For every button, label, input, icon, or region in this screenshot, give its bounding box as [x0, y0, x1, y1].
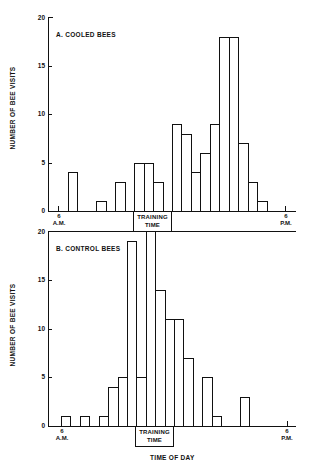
y-tick-label-a-20: 20 — [31, 14, 45, 21]
x-tick-a-6am — [58, 206, 59, 211]
x-tick-label-a-6am: 6 A.M. — [49, 213, 69, 227]
histogram-bar — [183, 358, 194, 426]
y-tick-a-5 — [48, 163, 52, 164]
histogram-bar — [153, 182, 164, 211]
training-time-box-b: TRAINING TIME — [135, 426, 174, 447]
y-axis-label-a: NUMBER OF BEE VISITS — [9, 70, 16, 150]
x-tick-label-b-6pm: 6 P.M. — [277, 428, 297, 442]
panel-title-a: A. COOLED BEES — [56, 31, 116, 38]
y-tick-label-b-15: 15 — [31, 276, 45, 283]
x-tick-a-6pm — [285, 206, 286, 211]
y-tick-label-b-5: 5 — [31, 373, 45, 380]
panel-b-top-border — [48, 231, 296, 232]
y-axis-label-b: NUMBER OF BEE VISITS — [9, 287, 16, 367]
y-tick-label-a-15: 15 — [31, 62, 45, 69]
y-tick-a-10 — [48, 114, 52, 115]
y-tick-label-a-10: 10 — [31, 110, 45, 117]
x-tick-label-b-6am: 6 A.M. — [52, 428, 72, 442]
y-tick-label-b-10: 10 — [31, 325, 45, 332]
y-tick-label-a-0: 0 — [31, 207, 45, 214]
histogram-bar — [96, 201, 107, 211]
x-tick-b-6pm — [287, 421, 288, 426]
y-tick-label-b-0: 0 — [31, 422, 45, 429]
y-tick-b-5 — [48, 377, 52, 378]
x-axis-label: TIME OF DAY — [150, 454, 195, 461]
x-tick-label-a-6pm: 6 P.M. — [276, 213, 296, 227]
x-tick-b-6am — [61, 421, 62, 426]
histogram-bar — [61, 416, 71, 426]
panel-title-b: B. CONTROL BEES — [56, 245, 120, 252]
y-tick-label-b-20: 20 — [31, 228, 45, 235]
histogram-bar — [115, 182, 126, 211]
histogram-bar — [212, 416, 222, 426]
training-time-box-a: TRAINING TIME — [133, 211, 172, 232]
histogram-bar — [240, 397, 250, 426]
histogram-bar — [68, 172, 78, 211]
y-tick-a-20 — [48, 17, 53, 18]
y-tick-b-10 — [48, 329, 52, 330]
histogram-bar — [80, 416, 90, 426]
y-tick-a-15 — [48, 66, 52, 67]
histogram-bar — [257, 201, 268, 211]
y-tick-label-a-5: 5 — [31, 159, 45, 166]
y-tick-b-15 — [48, 280, 52, 281]
x-axis-a — [48, 211, 296, 212]
